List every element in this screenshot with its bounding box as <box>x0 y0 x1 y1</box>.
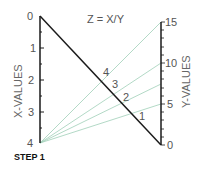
z-tick-2: 2 <box>123 91 129 103</box>
y-tick-10: 10 <box>165 57 177 69</box>
x-tick-2: 2 <box>28 74 34 86</box>
nomogram: 0 1 2 3 4 X-VALUES 0 5 10 1 <box>0 0 199 171</box>
z-tick-1: 1 <box>139 110 145 122</box>
y-tick-15: 15 <box>165 16 177 28</box>
y-axis: 0 5 10 15 Y-VALUES <box>161 16 192 151</box>
step-label: STEP 1 <box>14 152 45 162</box>
x-tick-1: 1 <box>30 42 36 54</box>
x-tick-3: 3 <box>28 106 34 118</box>
z-tick-3: 3 <box>112 78 118 90</box>
y-tick-0: 0 <box>167 139 173 151</box>
z-scale: 4 3 2 1 <box>40 16 161 145</box>
x-tick-0: 0 <box>27 10 33 22</box>
x-axis-title: X-VALUES <box>12 64 24 118</box>
diagram-title: Z = X/Y <box>87 13 125 25</box>
y-axis-title: Y-VALUES <box>180 55 192 108</box>
y-tick-5: 5 <box>167 98 173 110</box>
x-axis: 0 1 2 3 4 X-VALUES <box>12 10 44 149</box>
z-tick-4: 4 <box>103 66 109 78</box>
x-tick-4: 4 <box>27 137 33 149</box>
